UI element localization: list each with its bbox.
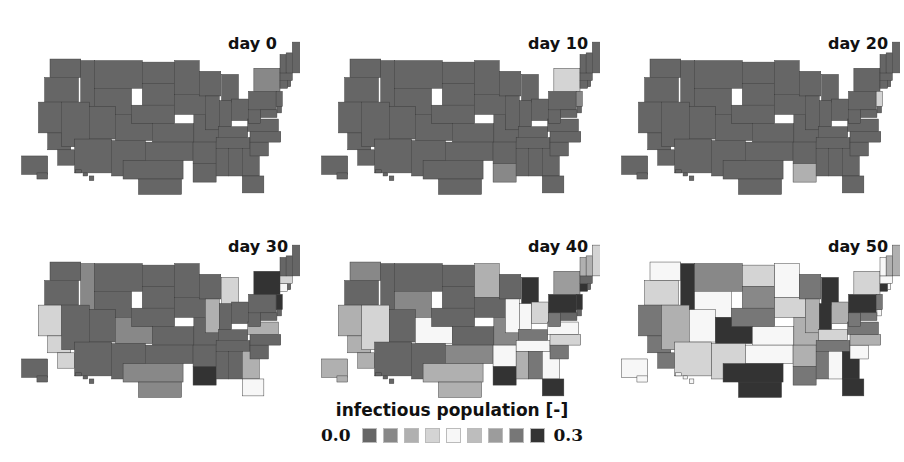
- state-TX: [723, 364, 783, 398]
- us-map: [0, 0, 300, 205]
- state-AL: [528, 148, 542, 176]
- state-IL: [805, 96, 819, 130]
- state-DE: [877, 310, 882, 316]
- legend-min-label: 0.0: [321, 425, 351, 445]
- state-AZ: [675, 139, 712, 173]
- state-FL: [542, 176, 564, 193]
- state-IL: [505, 96, 519, 130]
- state-KY: [518, 127, 547, 138]
- state-UT: [389, 107, 415, 139]
- state-OR: [645, 78, 679, 103]
- state-VT: [580, 257, 586, 275]
- state-MS: [816, 148, 828, 176]
- state-IN: [519, 304, 531, 330]
- map-panel-day-40: day 40: [300, 203, 600, 408]
- state-RI: [888, 284, 891, 290]
- state-AL: [828, 148, 842, 176]
- state-WI: [199, 71, 221, 96]
- state-MI: [222, 277, 239, 305]
- state-MD: [861, 110, 877, 118]
- map-panel-day-20: day 20: [600, 0, 900, 205]
- state-AR: [193, 345, 216, 367]
- state-SC: [550, 345, 568, 359]
- state-OR: [345, 281, 379, 306]
- state-NJ: [576, 294, 582, 309]
- state-SD: [742, 287, 774, 309]
- state-ID: [681, 61, 695, 107]
- state-FL: [242, 379, 264, 396]
- state-PA: [848, 294, 876, 312]
- state-MI: [522, 277, 539, 305]
- state-TX: [723, 161, 783, 195]
- state-TX: [423, 364, 483, 398]
- state-TX: [123, 364, 183, 398]
- state-NE: [732, 105, 775, 123]
- state-PA: [548, 91, 576, 109]
- state-KS: [152, 327, 194, 345]
- state-DE: [577, 107, 582, 113]
- state-SD: [142, 287, 174, 309]
- state-ND: [142, 265, 174, 287]
- state-MA: [580, 276, 592, 284]
- state-WI: [499, 71, 521, 96]
- state-PA: [548, 294, 576, 312]
- state-NY: [254, 68, 280, 91]
- state-NJ: [276, 91, 282, 106]
- state-SC: [250, 142, 268, 156]
- state-AL: [828, 351, 842, 379]
- state-OK: [445, 142, 493, 160]
- state-AR: [193, 142, 216, 164]
- state-NY: [554, 68, 580, 91]
- state-ID: [681, 264, 695, 310]
- state-NY: [554, 271, 580, 294]
- state-ND: [142, 62, 174, 84]
- state-IN: [219, 304, 231, 330]
- us-map: [600, 0, 900, 205]
- state-NY: [854, 68, 880, 91]
- legend-swatch: [404, 428, 419, 443]
- legend-swatch: [425, 428, 440, 443]
- state-LA: [493, 164, 516, 182]
- state-WV: [548, 313, 560, 327]
- state-OR: [45, 78, 79, 103]
- state-WA: [650, 59, 681, 77]
- state-NC: [550, 334, 581, 345]
- state-MA: [880, 73, 892, 81]
- colorbar-legend: infectious population [-] 0.0 0.3: [0, 398, 904, 458]
- state-MN: [475, 61, 500, 95]
- state-AK: [322, 359, 348, 382]
- state-MS: [516, 351, 528, 379]
- state-IL: [805, 299, 819, 333]
- state-WI: [799, 71, 821, 96]
- state-NC: [250, 334, 281, 345]
- state-MS: [216, 148, 228, 176]
- state-KS: [152, 124, 194, 142]
- state-NJ: [876, 91, 882, 106]
- state-IA: [175, 297, 206, 317]
- state-ID: [381, 61, 395, 107]
- state-TN: [516, 341, 550, 352]
- state-SD: [442, 84, 474, 106]
- state-ME: [592, 42, 600, 73]
- us-map: [600, 203, 900, 408]
- state-TX: [123, 161, 183, 195]
- state-ME: [892, 42, 900, 73]
- state-OH: [832, 99, 849, 121]
- map-panel-day-10: day 10: [300, 0, 600, 205]
- state-NE: [732, 308, 775, 326]
- us-map: [300, 0, 600, 205]
- state-MT: [395, 61, 443, 89]
- state-OH: [232, 302, 249, 324]
- state-MS: [216, 351, 228, 379]
- state-UT: [689, 310, 715, 342]
- state-OH: [532, 302, 549, 324]
- state-IA: [475, 94, 506, 114]
- state-TX: [423, 161, 483, 195]
- state-ME: [292, 42, 300, 73]
- state-DE: [277, 107, 282, 113]
- state-UT: [389, 310, 415, 342]
- legend-scale: 0.0 0.3: [0, 425, 904, 445]
- state-IA: [175, 94, 206, 114]
- state-NC: [550, 131, 581, 142]
- state-RI: [288, 81, 291, 87]
